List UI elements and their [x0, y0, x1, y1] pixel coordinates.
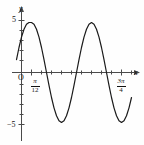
y-tick-label-negative-5: −5 — [7, 121, 16, 129]
fraction-numerator: π — [27, 78, 43, 85]
y-tick-label-5: 5 — [12, 16, 16, 24]
fraction-denominator: 4 — [112, 87, 130, 94]
x-axis-label: x — [134, 69, 138, 77]
x-tick-label-three-pi-over-4: 3π 4 — [112, 78, 130, 95]
origin-label: O — [18, 74, 24, 82]
y-axis-label: y — [19, 5, 23, 13]
figure-container: y x O 5 −5 π 12 3π 4 — [0, 0, 144, 145]
fraction-numerator: 3π — [112, 78, 130, 85]
fraction-denominator: 12 — [27, 87, 43, 94]
x-tick-label-pi-over-12: π 12 — [27, 78, 43, 95]
